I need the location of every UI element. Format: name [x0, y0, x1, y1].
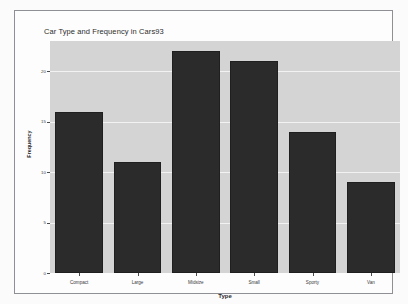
y-tick-label: 5	[32, 220, 46, 225]
plot-panel	[50, 41, 400, 273]
x-tick-label-small: Small	[224, 280, 284, 286]
x-axis-title: Type	[50, 293, 400, 299]
y-tick-mark	[47, 172, 50, 173]
bar-midsize	[172, 51, 220, 273]
y-axis-title: Frequency	[26, 121, 32, 167]
y-tick-label: 15	[32, 119, 46, 124]
y-tick: 20	[15, 69, 46, 74]
bar-van	[347, 182, 395, 273]
chart-title: Car Type and Frequency in Cars93	[44, 27, 164, 37]
y-tick: 0	[15, 271, 46, 276]
y-tick: 15	[15, 119, 46, 124]
y-tick-mark	[47, 71, 50, 72]
y-tick: 10	[15, 170, 46, 175]
x-tick-mark	[254, 273, 255, 276]
x-tick-mark	[79, 273, 80, 276]
x-tick-label-sporty: Sporty	[283, 280, 343, 286]
y-tick-label: 10	[32, 170, 46, 175]
y-tick-mark	[47, 273, 50, 274]
x-tick-mark	[196, 273, 197, 276]
y-tick-label: 20	[32, 69, 46, 74]
y-tick-mark	[47, 223, 50, 224]
x-tick-mark	[313, 273, 314, 276]
x-tick-mark	[371, 273, 372, 276]
plot-frame: Car Type and Frequency in Cars93 Frequen…	[14, 10, 393, 294]
gridline	[50, 71, 400, 72]
x-tick-mark	[138, 273, 139, 276]
chart-figure: Car Type and Frequency in Cars93 Frequen…	[0, 0, 408, 304]
x-tick-label-large: Large	[108, 280, 168, 286]
bar-sporty	[289, 132, 337, 273]
x-tick-label-compact: Compact	[49, 280, 109, 286]
y-tick: 5	[15, 220, 46, 225]
bar-large	[114, 162, 162, 273]
bar-compact	[55, 112, 103, 273]
y-tick-label: 0	[32, 271, 46, 276]
x-tick-label-midsize: Midsize	[166, 280, 226, 286]
y-tick-mark	[47, 122, 50, 123]
bar-small	[230, 61, 278, 273]
x-tick-label-van: Van	[341, 280, 401, 286]
